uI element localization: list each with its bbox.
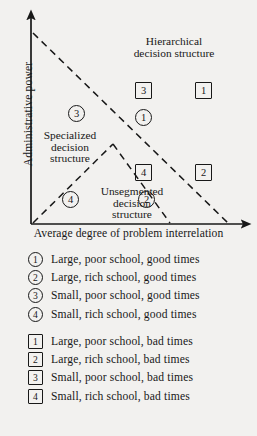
legend-label: Large, rich school, bad times — [51, 353, 190, 366]
legend-row: 2Large, rich school, bad times — [28, 350, 257, 368]
legend-row: 3Small, poor school, good times — [28, 287, 257, 305]
legend-label: Large, poor school, good times — [51, 253, 200, 266]
legend-label: Small, rich school, bad times — [51, 390, 190, 403]
plot-marker-square-3: 3 — [135, 82, 152, 99]
decision-structure-figure: Administrative power Hierarchical decisi… — [0, 0, 257, 436]
zone-hierarchical-line2: decision structure — [104, 48, 244, 60]
plot-marker-circle-2: 2 — [138, 191, 155, 208]
legend-marker-square-2: 2 — [28, 352, 43, 367]
plot-area: Administrative power Hierarchical decisi… — [0, 0, 257, 236]
y-axis-label: Administrative power — [22, 34, 34, 194]
x-axis-label: Average degree of problem interrelation — [0, 227, 257, 240]
zone-label-hierarchical: Hierarchical decision structure — [104, 36, 244, 59]
zone-specialized-line1: Specialized — [28, 130, 112, 142]
legend-label: Small, rich school, good times — [51, 308, 197, 321]
plot-marker-circle-3: 3 — [68, 105, 85, 122]
legend-row: 4Small, rich school, bad times — [28, 387, 257, 405]
legend-row: 4Small, rich school, good times — [28, 305, 257, 323]
plot-marker-square-1: 1 — [195, 82, 212, 99]
legend-marker-square-3: 3 — [28, 370, 43, 385]
plot-marker-square-2: 2 — [195, 164, 212, 181]
zone-label-unsegmented: Unsegmented decision structure — [86, 186, 178, 221]
legend-label: Small, poor school, good times — [51, 289, 200, 302]
zone-specialized-line3: structure — [28, 153, 112, 165]
legend-label: Large, rich school, good times — [51, 271, 196, 284]
legend-divider — [28, 323, 257, 332]
plot-marker-circle-1: 1 — [135, 109, 152, 126]
legend-marker-square-1: 1 — [28, 334, 43, 349]
legend-group-bad-times: 1Large, poor school, bad times2Large, ri… — [28, 332, 257, 405]
legend-marker-circle-1: 1 — [28, 252, 43, 267]
plot-marker-circle-4: 4 — [62, 191, 79, 208]
legend-row: 1Large, poor school, good times — [28, 250, 257, 268]
zone-unsegmented-line3: structure — [86, 209, 178, 221]
zone-label-specialized: Specialized decision structure — [28, 130, 112, 165]
legend-label: Small, poor school, bad times — [51, 371, 193, 384]
zone-unsegmented-line1: Unsegmented — [86, 186, 178, 198]
legend-row: 2Large, rich school, good times — [28, 268, 257, 286]
plot-marker-square-4: 4 — [135, 164, 152, 181]
legend-group-good-times: 1Large, poor school, good times2Large, r… — [28, 250, 257, 323]
legend-marker-circle-3: 3 — [28, 288, 43, 303]
legend-marker-circle-4: 4 — [28, 307, 43, 322]
legend-label: Large, poor school, bad times — [51, 335, 193, 348]
zone-hierarchical-line1: Hierarchical — [104, 36, 244, 48]
legend-marker-circle-2: 2 — [28, 270, 43, 285]
legend-row: 1Large, poor school, bad times — [28, 332, 257, 350]
legend-row: 3Small, poor school, bad times — [28, 369, 257, 387]
legend-marker-square-4: 4 — [28, 389, 43, 404]
legend: 1Large, poor school, good times2Large, r… — [28, 250, 257, 405]
